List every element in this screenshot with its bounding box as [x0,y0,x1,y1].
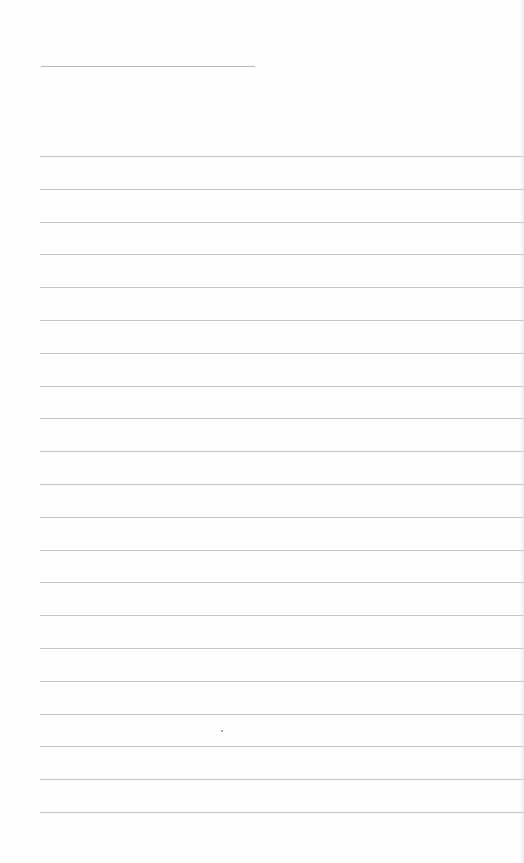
ruled-line [40,779,524,780]
ruled-line [40,451,524,452]
ruled-line [40,746,524,747]
ruled-line [40,648,524,649]
ruled-line [40,418,524,419]
ruled-line [40,156,524,157]
ruled-line [40,484,524,485]
ruled-line [40,189,524,190]
ruled-line [40,615,524,616]
ruled-line [40,714,524,715]
ink-speck [221,730,223,732]
ruled-line [40,287,524,288]
ruled-line [40,320,524,321]
notebook-page [0,0,524,863]
ruled-line [40,812,524,813]
ruled-line [40,353,524,354]
ruled-line [40,254,524,255]
page-edge-shadow [520,0,524,863]
ruled-line [40,222,524,223]
ruled-line [40,517,524,518]
ruled-line [40,550,524,551]
ruled-line [40,386,524,387]
ruled-line [40,582,524,583]
title-line [41,66,255,67]
ruled-line [40,681,524,682]
